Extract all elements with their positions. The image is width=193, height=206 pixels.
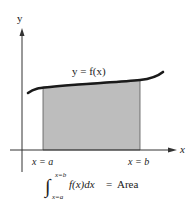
equals-sign: =	[106, 178, 112, 190]
x-axis-label: x	[179, 143, 185, 155]
integral-equation: ∫ x=b x=a f(x)dx = Area	[43, 171, 138, 201]
right-bound-label: x = b	[127, 156, 149, 167]
area-under-curve-diagram: y x y = f(x) x = a x = b ∫ x=b x=a f(x)d…	[0, 0, 193, 206]
left-bound-label: x = a	[31, 156, 53, 167]
integrand: f(x)dx	[69, 178, 95, 191]
y-axis-label: y	[17, 12, 23, 24]
x-axis-arrow-icon	[168, 148, 177, 153]
shaded-area-region	[43, 80, 140, 150]
curve-label: y = f(x)	[72, 65, 106, 78]
integral-upper-limit: x=b	[54, 171, 67, 179]
integral-lower-limit: x=a	[51, 193, 64, 201]
y-axis-arrow-icon	[20, 28, 25, 36]
integral-result: Area	[117, 178, 138, 190]
integral-symbol: ∫	[43, 175, 52, 199]
